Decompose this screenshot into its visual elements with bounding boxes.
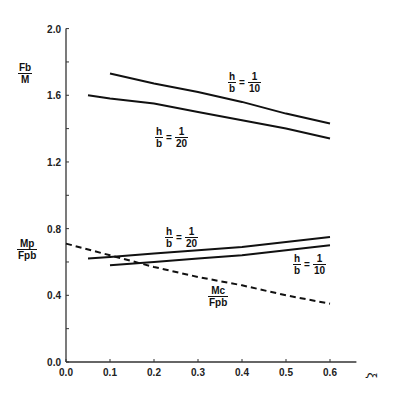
x-tick-label: 0.5 [279, 367, 293, 378]
x-tick-label: 0.2 [147, 367, 161, 378]
x-tick-label: 0.3 [191, 367, 205, 378]
x-tick-label: 0.1 [103, 367, 117, 378]
series-line [88, 95, 330, 138]
x-tick-label: 0.6 [323, 367, 337, 378]
x-tick-label: 0.4 [235, 367, 249, 378]
chart-canvas: 0.00.40.81.21.62.00.00.10.20.30.40.50.6 [0, 0, 397, 402]
y-tick-label: 1.6 [47, 90, 61, 101]
x-axis-label: ξ [365, 373, 380, 379]
lower-y-label: Mp Fpb [17, 238, 37, 261]
annotation-upper-h-b-1-10: hb = 110 [228, 71, 261, 94]
axes: 0.00.40.81.21.62.00.00.10.20.30.40.50.6 [47, 24, 356, 378]
upper-y-label: Fb M [18, 62, 32, 85]
series-lines [66, 74, 330, 304]
y-tick-label: 2.0 [47, 24, 61, 35]
y-tick-label: 0.8 [47, 224, 61, 235]
annotation-lower-h-b-1-20: hb = 120 [165, 226, 198, 249]
annotation-lower-h-b-1-10: hb = 110 [293, 253, 326, 276]
y-tick-label: 0.4 [47, 290, 61, 301]
x-tick-label: 0.0 [59, 367, 73, 378]
annotation-mc-fpb: Mc Fpb [208, 285, 228, 308]
annotation-upper-h-b-1-20: hb = 120 [155, 126, 188, 149]
series-line [66, 244, 330, 304]
y-tick-label: 1.2 [47, 157, 61, 168]
